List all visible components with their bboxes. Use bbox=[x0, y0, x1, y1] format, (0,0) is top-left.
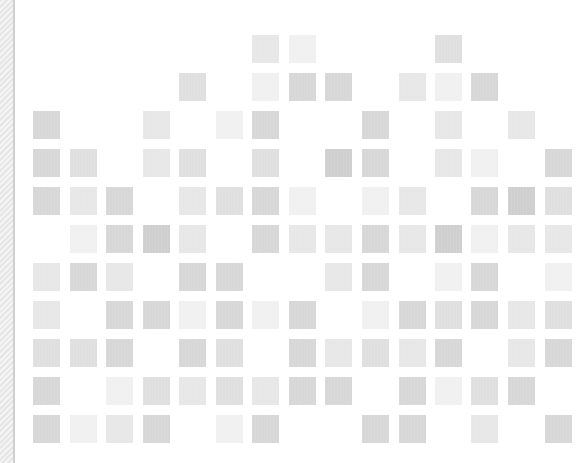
grid-tile bbox=[508, 377, 535, 405]
grid-tile bbox=[33, 301, 60, 329]
grid-tile bbox=[508, 339, 535, 367]
grid-tile bbox=[399, 415, 426, 443]
grid-tile bbox=[362, 187, 389, 215]
grid-tile bbox=[252, 35, 279, 63]
grid-tile bbox=[33, 263, 60, 291]
grid-tile bbox=[435, 225, 462, 253]
grid-tile bbox=[216, 111, 243, 139]
grid-tile bbox=[545, 187, 572, 215]
grid-tile bbox=[252, 149, 279, 177]
grid-tile bbox=[106, 377, 133, 405]
grid-tile bbox=[399, 301, 426, 329]
grid-tile bbox=[289, 35, 316, 63]
grid-tile bbox=[179, 149, 206, 177]
grid-tile bbox=[143, 111, 170, 139]
grid-tile bbox=[70, 415, 97, 443]
grid-tile bbox=[179, 339, 206, 367]
grid-tile bbox=[362, 225, 389, 253]
grid-tile bbox=[143, 225, 170, 253]
grid-tile bbox=[252, 187, 279, 215]
grid-tile bbox=[508, 301, 535, 329]
grid-tile bbox=[435, 377, 462, 405]
grid-tile bbox=[216, 187, 243, 215]
grid-tile bbox=[399, 187, 426, 215]
grid-tile bbox=[143, 149, 170, 177]
grid-tile bbox=[33, 111, 60, 139]
grid-tile bbox=[508, 225, 535, 253]
grid-tile bbox=[325, 73, 352, 101]
grid-tile bbox=[216, 339, 243, 367]
grid-tile bbox=[471, 301, 498, 329]
grid-tile bbox=[435, 111, 462, 139]
grid-tile bbox=[545, 263, 572, 291]
grid-tile bbox=[435, 339, 462, 367]
grid-tile bbox=[508, 111, 535, 139]
grid-tile bbox=[325, 149, 352, 177]
grid-tile bbox=[106, 339, 133, 367]
grid-tile bbox=[106, 263, 133, 291]
grid-tile bbox=[471, 263, 498, 291]
grid-tile bbox=[471, 225, 498, 253]
grid-tile bbox=[325, 225, 352, 253]
grid-tile bbox=[325, 263, 352, 291]
grid-tile bbox=[435, 149, 462, 177]
grid-tile bbox=[106, 415, 133, 443]
grid-tile bbox=[399, 339, 426, 367]
grid-tile bbox=[70, 263, 97, 291]
grid-tile bbox=[471, 187, 498, 215]
grid-tile bbox=[216, 263, 243, 291]
grid-tile bbox=[471, 149, 498, 177]
grid-tile bbox=[216, 377, 243, 405]
grid-tile bbox=[545, 339, 572, 367]
grid-tile bbox=[471, 73, 498, 101]
grid-tile bbox=[471, 415, 498, 443]
grid-tile bbox=[252, 111, 279, 139]
grid-tile bbox=[362, 415, 389, 443]
grid-tile bbox=[435, 35, 462, 63]
grid-tile bbox=[252, 377, 279, 405]
grid-tile bbox=[289, 225, 316, 253]
grid-tile bbox=[289, 377, 316, 405]
grid-tile bbox=[362, 301, 389, 329]
grid-tile bbox=[289, 301, 316, 329]
grid-tile bbox=[143, 301, 170, 329]
grid-tile bbox=[70, 149, 97, 177]
grid-tile bbox=[325, 339, 352, 367]
grid-tile bbox=[106, 225, 133, 253]
grid-tile bbox=[252, 301, 279, 329]
grid-tile bbox=[252, 225, 279, 253]
grid-tile bbox=[179, 187, 206, 215]
grid-tile bbox=[289, 187, 316, 215]
grid-tile bbox=[399, 377, 426, 405]
grid-tile bbox=[289, 339, 316, 367]
grid-tile bbox=[325, 377, 352, 405]
grid-tile bbox=[435, 301, 462, 329]
grid-tile bbox=[471, 377, 498, 405]
grid-tile bbox=[399, 225, 426, 253]
grid-tile bbox=[179, 225, 206, 253]
grid-tile bbox=[435, 73, 462, 101]
grid-tile bbox=[33, 339, 60, 367]
grid-tile bbox=[362, 263, 389, 291]
grid-tile bbox=[179, 377, 206, 405]
grid-tile bbox=[545, 149, 572, 177]
grid-tile bbox=[216, 301, 243, 329]
grid-tile bbox=[252, 73, 279, 101]
grid-tile bbox=[362, 149, 389, 177]
grid-tile bbox=[545, 415, 572, 443]
grid-tile bbox=[33, 415, 60, 443]
grid-tile bbox=[70, 339, 97, 367]
grid-tile bbox=[362, 111, 389, 139]
grid-tile bbox=[143, 377, 170, 405]
grid-tile bbox=[143, 415, 170, 443]
grid-tile bbox=[362, 339, 389, 367]
grid-tile bbox=[179, 73, 206, 101]
grid-tile bbox=[435, 263, 462, 291]
tile-grid bbox=[0, 0, 587, 463]
grid-tile bbox=[70, 225, 97, 253]
grid-tile bbox=[289, 73, 316, 101]
grid-tile bbox=[399, 73, 426, 101]
grid-tile bbox=[179, 263, 206, 291]
grid-tile bbox=[33, 187, 60, 215]
grid-tile bbox=[252, 415, 279, 443]
